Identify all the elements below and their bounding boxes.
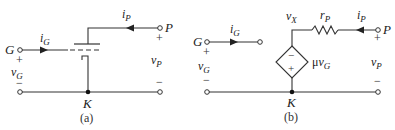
plate-lead-a <box>88 28 158 44</box>
vg-minus-b: − <box>203 73 210 87</box>
label-k-b: K <box>286 95 297 110</box>
vg-plus-a: + <box>16 53 23 67</box>
grid-current-label-b: iG <box>230 22 240 38</box>
rp-label-b: rP <box>320 8 331 24</box>
panel-b-model: G iG + vG − vX rP iP P − + μvG + vP − <box>193 8 391 124</box>
plate-current-label-b: iP <box>357 8 366 24</box>
caption-a: (a) <box>80 111 93 125</box>
node-x-wire-b <box>292 30 312 46</box>
resistor-rp-b <box>312 26 338 34</box>
label-g-a: G <box>5 42 15 57</box>
vx-label-b: vX <box>286 9 297 25</box>
vp-plus-a: + <box>156 31 163 45</box>
terminal-g-ground-b <box>205 90 210 95</box>
vp-label-a: vP <box>151 53 162 69</box>
label-g-b: G <box>193 34 203 49</box>
vp-plus-b: + <box>374 31 381 45</box>
label-k-a: K <box>82 96 93 111</box>
node-k-b <box>290 90 295 95</box>
vg-plus-b: + <box>203 45 210 59</box>
panel-a-triode: G iG iP P K + vG − + vP − (a) <box>5 7 173 125</box>
cathode-a <box>82 56 88 92</box>
terminal-g-ground-a <box>18 90 23 95</box>
grid-current-label-a: iG <box>40 31 50 47</box>
plate-current-label-a: iP <box>122 7 131 23</box>
terminal-g-b <box>205 40 210 45</box>
node-k-a <box>86 90 91 95</box>
triode-circuit-diagrams: G iG iP P K + vG − + vP − (a) <box>0 0 395 130</box>
terminal-g-a <box>18 48 23 53</box>
terminal-p-ground-a <box>158 90 163 95</box>
grid-open-end-b <box>258 40 263 45</box>
plate-current-arrow-a <box>126 25 134 32</box>
source-minus-b: − <box>288 49 294 61</box>
caption-b: (b) <box>284 110 298 124</box>
label-p-a: P <box>164 20 173 35</box>
terminal-p-ground-b <box>376 90 381 95</box>
plate-current-arrow-b <box>356 27 364 34</box>
grid-current-arrow-a <box>40 47 48 54</box>
vg-minus-a: − <box>16 76 23 90</box>
label-p-b: P <box>382 22 391 37</box>
source-plus-b: + <box>288 62 294 74</box>
grid-current-arrow-b <box>230 39 238 46</box>
source-gain-label-b: μvG <box>312 55 331 71</box>
vp-label-b: vP <box>371 55 382 71</box>
vp-minus-b: − <box>374 74 381 88</box>
terminal-p-a <box>158 26 163 31</box>
vp-minus-a: − <box>156 75 163 89</box>
